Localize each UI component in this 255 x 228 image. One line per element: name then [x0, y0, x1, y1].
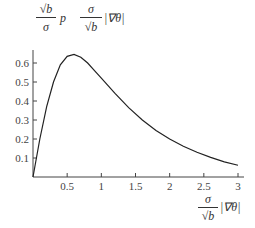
y-tick-label: 0.4	[15, 95, 29, 107]
y-tick-label: 0.5	[15, 76, 29, 88]
x-tick-label: 2.5	[197, 180, 211, 192]
xlabel-numerator: σ	[198, 192, 218, 208]
ylabel-inner-den: √b	[80, 20, 102, 35]
y-tick-label: 0.2	[15, 133, 29, 145]
x-tick-label: 1	[99, 180, 105, 192]
x-tick-label: 2	[167, 180, 173, 192]
xlabel-grad: |∇θ|	[220, 200, 241, 215]
xlabel-denominator: √b	[198, 209, 218, 224]
ylabel-func: p	[60, 11, 66, 26]
x-tick-label: 1.5	[129, 180, 143, 192]
chart: 0.511.522.530.10.20.30.40.50.6 √b σ p σ …	[0, 0, 255, 228]
y-tick-label: 0.3	[15, 114, 29, 126]
x-tick-label: 3	[235, 180, 241, 192]
ylabel-grad: |∇θ|	[104, 11, 125, 26]
ylabel-inner-num: σ	[80, 2, 102, 18]
ylabel-numerator: √b	[36, 2, 56, 18]
y-tick-label: 0.6	[15, 57, 29, 69]
series-line-p	[33, 54, 238, 177]
y-tick-label: 0.1	[15, 152, 29, 164]
ylabel-denominator: σ	[36, 20, 56, 35]
x-tick-label: 0.5	[60, 180, 74, 192]
